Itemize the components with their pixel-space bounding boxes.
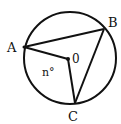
label-o: 0 [72, 52, 80, 66]
center-point [66, 57, 70, 61]
angle-label-n: n° [42, 66, 55, 79]
label-a: A [6, 40, 17, 55]
label-b: B [108, 15, 118, 30]
circle [24, 12, 116, 104]
radius-oa [24, 47, 68, 59]
circle-diagram: A B C 0 n° [0, 0, 121, 124]
label-c: C [68, 109, 78, 124]
point-a [23, 46, 26, 49]
chord-ab [24, 29, 104, 47]
